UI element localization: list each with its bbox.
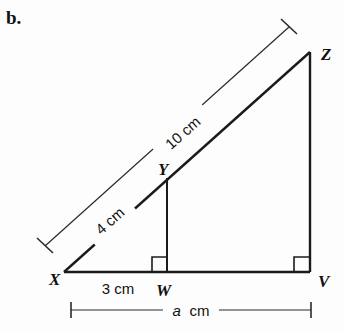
vertex-label-x: X	[48, 270, 61, 289]
vertex-label-z: Z	[320, 45, 331, 64]
dimension-label-acm-group: a cm	[173, 302, 210, 319]
triangle-diagram-svg: 10 cm 4 cm 3 cm a cm X W V Y Z	[0, 0, 343, 331]
vertex-label-v: V	[318, 272, 331, 291]
right-angle-marker-w	[152, 257, 167, 272]
vertex-label-w: W	[156, 281, 173, 300]
dimension-label-acm-unit: cm	[189, 302, 209, 319]
right-angle-marker-v	[294, 257, 310, 272]
vertex-label-y: Y	[158, 160, 170, 179]
dimension-label-10cm-group: 10 cm	[151, 103, 214, 163]
dimension-label-4cm-group: 4 cm	[83, 195, 137, 247]
dimension-label-3cm: 3 cm	[102, 280, 135, 297]
dimension-label-acm-variable: a	[173, 302, 181, 319]
geometry-figure: b. 10 cm 4 cm 3 cm	[0, 0, 343, 331]
part-label: b.	[6, 7, 21, 29]
